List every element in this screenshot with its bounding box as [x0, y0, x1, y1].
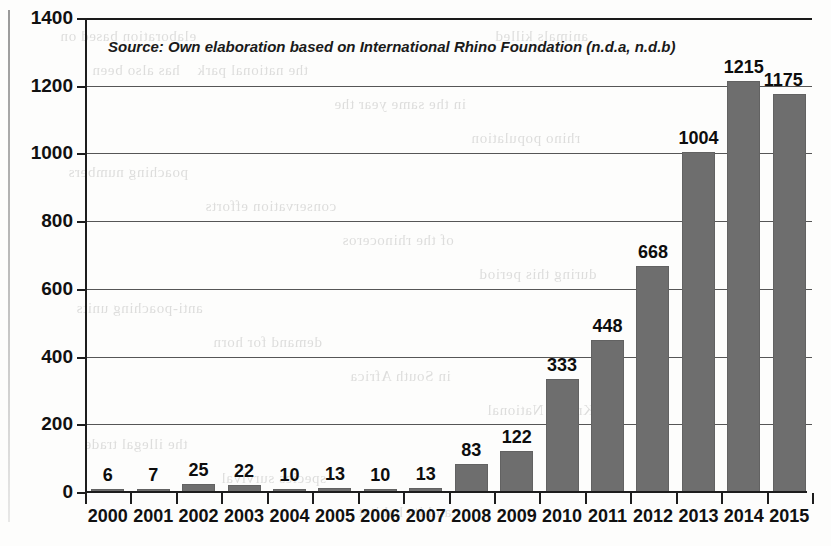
x-tick-mark: [721, 493, 723, 504]
bar: [682, 152, 715, 492]
x-axis-label: 2004: [269, 506, 309, 527]
x-tick-mark: [312, 493, 314, 504]
bar-value-label: 22: [234, 461, 254, 482]
x-axis-label: 2003: [224, 506, 264, 527]
x-tick-mark: [176, 493, 178, 504]
gridline: [85, 86, 812, 87]
x-axis-label: 2011: [588, 506, 627, 527]
x-tick-mark: [539, 493, 541, 504]
y-axis-label: 1000: [31, 142, 73, 164]
y-axis-line: [85, 18, 87, 494]
x-axis-label: 2002: [179, 506, 219, 527]
x-tick-mark: [85, 493, 87, 504]
x-axis-label: 2013: [678, 506, 718, 527]
gridline: [85, 18, 812, 20]
y-tick-mark: [77, 357, 85, 359]
bar: [636, 266, 669, 492]
bar-chart: 6725221013101383122333448668100412151175…: [0, 0, 831, 546]
bar-value-label: 668: [638, 242, 668, 263]
x-tick-mark: [267, 493, 269, 504]
y-tick-mark: [77, 424, 85, 426]
x-tick-mark: [630, 493, 632, 504]
bar-value-label: 122: [502, 427, 532, 448]
bar: [546, 379, 579, 492]
x-tick-mark: [767, 493, 769, 504]
y-tick-mark: [77, 86, 85, 88]
bar-value-label: 10: [279, 465, 299, 486]
x-axis-label: 2000: [88, 506, 128, 527]
y-axis-label: 600: [41, 278, 73, 300]
x-tick-mark: [585, 493, 587, 504]
x-tick-mark: [812, 493, 814, 504]
bar-value-label: 333: [547, 355, 577, 376]
x-axis-label: 2007: [406, 506, 446, 527]
bar: [591, 340, 624, 492]
bar-value-label: 7: [148, 465, 158, 486]
bar-value-label: 13: [416, 464, 436, 485]
bar-value-label: 25: [189, 460, 209, 481]
plot-area: 6725221013101383122333448668100412151175: [85, 18, 812, 492]
y-axis-label: 1400: [31, 7, 73, 29]
y-axis-label: 800: [41, 210, 73, 232]
y-tick-mark: [77, 18, 85, 20]
bar-value-label: 448: [593, 316, 623, 337]
x-tick-mark: [449, 493, 451, 504]
bar-value-label: 10: [370, 465, 390, 486]
x-tick-mark: [676, 493, 678, 504]
x-axis-label: 2009: [497, 506, 537, 527]
bar: [773, 94, 806, 492]
y-tick-mark: [77, 492, 85, 494]
y-axis-label: 200: [41, 413, 73, 435]
bar: [500, 451, 533, 492]
x-axis-label: 2010: [542, 506, 582, 527]
bar: [727, 81, 760, 492]
y-axis-label: 400: [41, 346, 73, 368]
bar: [455, 464, 488, 492]
x-axis-label: 2014: [724, 506, 764, 527]
x-axis-label: 2001: [133, 506, 173, 527]
bar-value-label: 13: [325, 464, 345, 485]
y-tick-mark: [77, 221, 85, 223]
y-tick-mark: [77, 289, 85, 291]
x-tick-mark: [403, 493, 405, 504]
y-axis-label: 0: [62, 481, 73, 503]
source-note: Source: Own elaboration based on Interna…: [108, 38, 676, 55]
x-axis-label: 2005: [315, 506, 355, 527]
x-tick-mark: [221, 493, 223, 504]
bar-value-label: 1175: [764, 70, 803, 91]
x-axis-label: 2015: [769, 506, 809, 527]
bar-value-label: 1215: [724, 57, 764, 78]
bar-value-label: 83: [461, 440, 481, 461]
x-axis-label: 2008: [451, 506, 491, 527]
y-tick-mark: [77, 153, 85, 155]
y-axis-label: 1200: [31, 75, 73, 97]
x-axis-label: 2006: [360, 506, 400, 527]
bar-value-label: 1004: [678, 128, 718, 149]
x-axis-line: [85, 491, 807, 493]
x-axis-label: 2012: [633, 506, 673, 527]
bar-value-label: 6: [103, 465, 113, 486]
x-tick-mark: [494, 493, 496, 504]
x-tick-mark: [358, 493, 360, 504]
x-tick-mark: [130, 493, 132, 504]
